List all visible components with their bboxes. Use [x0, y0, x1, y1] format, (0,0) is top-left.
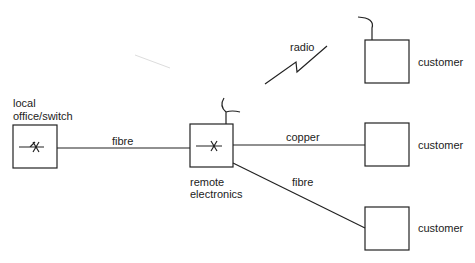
switch-icon-remote: [196, 141, 222, 151]
fibre-link-remote-customer: [233, 163, 365, 228]
antenna-icon-customer: [358, 17, 372, 40]
fibre-label-office: fibre: [112, 134, 133, 148]
customer-fibre-box: [365, 207, 409, 250]
local-office-label-2: office/switch: [13, 109, 73, 123]
fibre-label-customer: fibre: [292, 175, 313, 189]
remote-label-2: electronics: [190, 187, 243, 201]
customer-radio-box: [365, 40, 409, 83]
switch-icon: [19, 142, 44, 152]
faint-mark: [135, 55, 170, 68]
local-office-label-1: local: [13, 96, 36, 110]
customer-label-radio: customer: [418, 55, 463, 69]
antenna-icon-remote: [222, 98, 240, 124]
copper-label: copper: [286, 130, 320, 144]
customer-copper-box: [365, 123, 409, 166]
customer-label-fibre: customer: [418, 221, 463, 235]
network-diagram: [0, 0, 475, 263]
radio-label: radio: [290, 40, 314, 54]
customer-label-copper: customer: [418, 138, 463, 152]
